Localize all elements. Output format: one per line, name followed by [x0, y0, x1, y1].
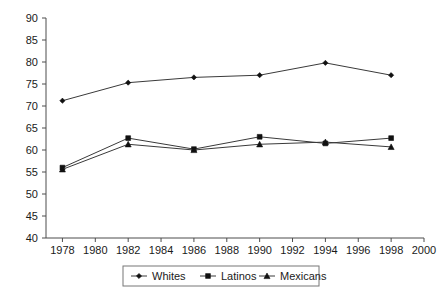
data-point-marker: [257, 134, 262, 139]
x-tick-label: 1988: [215, 244, 239, 256]
series-line: [62, 137, 391, 168]
y-tick-label: 75: [26, 78, 38, 90]
series-whites: [60, 60, 394, 103]
x-tick-label: 1982: [116, 244, 140, 256]
x-tick-label: 2000: [412, 244, 436, 256]
y-tick-label: 55: [26, 166, 38, 178]
legend-label: Mexicans: [280, 270, 327, 282]
data-point-marker: [389, 73, 394, 78]
x-tick-label: 1998: [379, 244, 403, 256]
series-layer: [59, 60, 394, 172]
data-point-marker: [126, 136, 131, 141]
legend-marker-square-icon: [206, 274, 211, 279]
series-latinos: [60, 134, 393, 170]
x-tick-label: 1986: [182, 244, 206, 256]
chart-canvas: 4045505560657075808590 19781980198219841…: [0, 0, 442, 298]
series-line: [62, 142, 391, 169]
data-point-marker: [257, 73, 262, 78]
x-tick-label: 1996: [346, 244, 370, 256]
data-point-marker: [323, 60, 328, 65]
x-tick-label: 1984: [149, 244, 173, 256]
x-tick-label: 1980: [83, 244, 107, 256]
x-tick-label: 1978: [50, 244, 74, 256]
chart-legend: WhitesLatinosMexicans: [123, 266, 327, 286]
data-point-marker: [389, 136, 394, 141]
x-tick-label: 1992: [280, 244, 304, 256]
x-tick-label: 1994: [313, 244, 337, 256]
legend-label: Latinos: [221, 270, 257, 282]
y-tick-label: 60: [26, 144, 38, 156]
data-point-marker: [60, 98, 65, 103]
line-chart: 4045505560657075808590 19781980198219841…: [0, 0, 442, 298]
data-point-marker: [191, 75, 196, 80]
y-tick-label: 50: [26, 188, 38, 200]
x-tick-label: 1990: [247, 244, 271, 256]
y-tick-label: 70: [26, 100, 38, 112]
y-tick-label: 80: [26, 56, 38, 68]
y-tick-label: 90: [26, 12, 38, 24]
y-tick-label: 65: [26, 122, 38, 134]
data-point-marker: [126, 80, 131, 85]
legend-label: Whites: [152, 270, 186, 282]
series-mexicans: [59, 139, 394, 172]
x-axis-ticks: 1978198019821984198619881990199219941996…: [50, 238, 436, 256]
series-line: [62, 63, 391, 101]
y-tick-label: 45: [26, 210, 38, 222]
y-axis-ticks: 4045505560657075808590: [26, 12, 46, 244]
y-tick-label: 40: [26, 232, 38, 244]
y-tick-label: 85: [26, 34, 38, 46]
